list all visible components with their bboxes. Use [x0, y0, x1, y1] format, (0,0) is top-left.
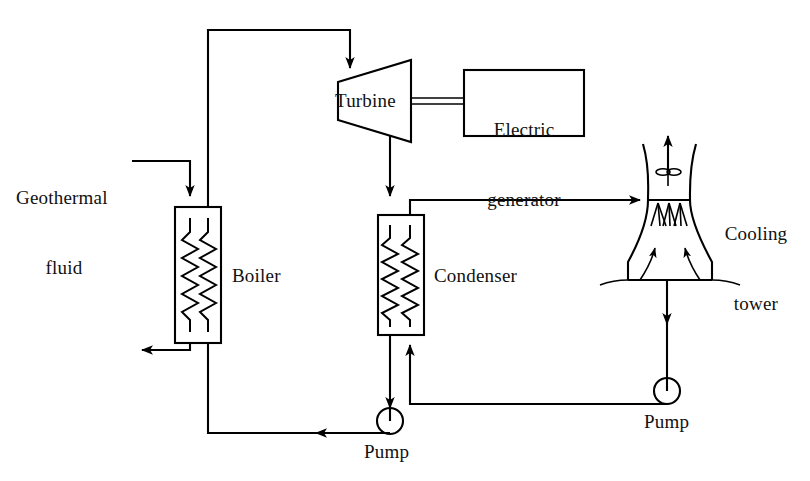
boiler-to-turbine-pipe: [208, 30, 350, 207]
electric-generator-label: Electric generator: [464, 72, 584, 257]
cooling-tower-label-line1: Cooling: [712, 222, 800, 245]
electric-generator-label-line2: generator: [464, 188, 584, 211]
turbine-shaft: [411, 98, 464, 104]
pump-cooling-water-label: Pump: [644, 410, 689, 433]
geothermal-fluid-label-line2: fluid: [16, 256, 112, 279]
boiler-coil-geothermal: [182, 218, 198, 332]
cooling-tower-spray-nozzles: [651, 203, 687, 226]
cooling-tower-right-wall: [690, 144, 712, 280]
condenser-coil-working-fluid: [382, 225, 398, 327]
air-intake-arrow-left: [640, 248, 655, 280]
cooling-tower-left-wall: [628, 144, 648, 280]
boiler-label: Boiler: [232, 264, 281, 287]
cooling-tower-label-line2: tower: [712, 292, 800, 315]
turbine-label: Turbine: [335, 89, 396, 112]
diagram-canvas: Geothermal fluid Boiler Turbine Electric…: [0, 0, 810, 481]
boiler-coil-working-fluid: [200, 218, 216, 332]
electric-generator-label-line1: Electric: [464, 118, 584, 141]
geothermal-fluid-label-line1: Geothermal: [16, 186, 136, 209]
cooling-tower-label: Cooling tower: [712, 176, 800, 361]
boiler-unit: [175, 207, 221, 343]
pump-working-fluid-symbol: [377, 408, 403, 434]
condenser-label: Condenser: [434, 264, 517, 287]
condenser-coil-cooling-water: [402, 225, 418, 327]
condenser-shell: [378, 215, 424, 335]
geothermal-fluid-inlet-pipe: [132, 161, 190, 196]
pump-working-fluid-label: Pump: [364, 440, 409, 463]
condenser-unit: [378, 215, 424, 335]
pump-cooling-water-symbol: [654, 378, 680, 404]
cooling-tower-basin-left: [600, 280, 628, 285]
air-intake-arrow-right: [685, 248, 700, 280]
geothermal-fluid-label: Geothermal fluid: [16, 140, 136, 325]
pump-to-condenser-pipe: [410, 345, 667, 404]
pump-to-boiler-pipe: [208, 343, 390, 433]
